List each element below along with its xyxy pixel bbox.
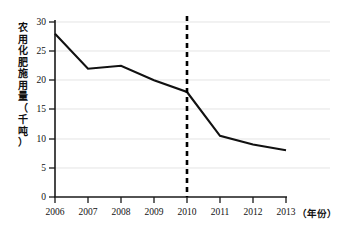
y-axis-title-char-4: 施 bbox=[8, 68, 38, 80]
y-axis-title-char-5: 用 bbox=[8, 80, 38, 92]
y-axis-title-char-1: 用 bbox=[8, 34, 38, 46]
x-axis-unit-label: （年份） bbox=[297, 206, 337, 220]
y-axis-ticks bbox=[49, 22, 55, 197]
x-tick-label-2010: 2010 bbox=[178, 207, 197, 217]
chart-canvas: 30 25 20 15 10 5 0 2006 2007 2008 2009 2… bbox=[0, 0, 346, 233]
x-axis-tick-labels: 2006 2007 2008 2009 2010 2011 2012 2013 bbox=[46, 207, 296, 217]
x-tick-label-2012: 2012 bbox=[244, 207, 263, 217]
y-axis-title-char-6: 量 bbox=[8, 91, 38, 103]
y-tick-label-5: 5 bbox=[41, 163, 46, 173]
y-axis-title-char-3: 肥 bbox=[8, 57, 38, 69]
x-tick-label-2006: 2006 bbox=[46, 207, 65, 217]
y-axis-title-char-7: （ bbox=[8, 103, 38, 115]
y-axis-title: 农 用 化 肥 施 用 量 （ 千 吨 ） bbox=[8, 22, 38, 149]
x-tick-label-2009: 2009 bbox=[145, 207, 164, 217]
y-axis-title-char-8: 千 bbox=[8, 114, 38, 126]
gridlines bbox=[55, 22, 330, 168]
y-axis-title-char-9: 吨 bbox=[8, 126, 38, 138]
x-tick-label-2008: 2008 bbox=[112, 207, 131, 217]
y-axis-title-char-2: 化 bbox=[8, 45, 38, 57]
y-tick-label-0: 0 bbox=[41, 192, 46, 202]
y-axis-title-char-10: ） bbox=[8, 137, 38, 149]
x-axis-ticks bbox=[55, 197, 286, 203]
y-axis-title-char-0: 农 bbox=[8, 22, 38, 34]
x-tick-label-2011: 2011 bbox=[211, 207, 230, 217]
line-chart: 农 用 化 肥 施 用 量 （ 千 吨 ） bbox=[0, 0, 346, 233]
x-tick-label-2007: 2007 bbox=[79, 207, 98, 217]
x-tick-label-2013: 2013 bbox=[277, 207, 296, 217]
